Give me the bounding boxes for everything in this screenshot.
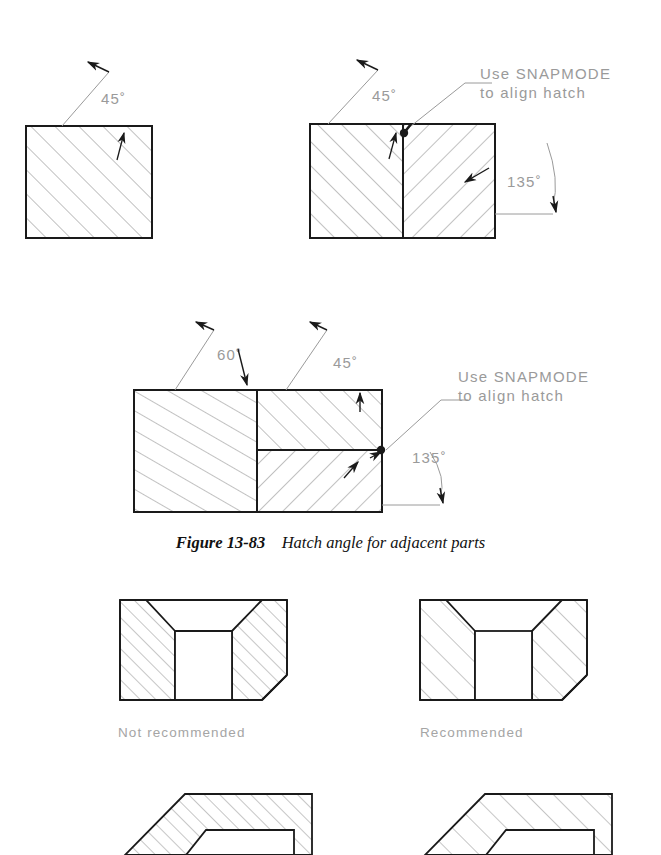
figure-three-parts: 60˚ 45˚ Use SNAPMODE to align hatch 135˚ [134,322,589,512]
trapezoid-left-notch [186,830,294,855]
label-not-recommended: Not recommended [118,725,246,740]
leader-line-45-right-fig [328,70,378,124]
rec-block-cavity [475,631,532,700]
snapmode-note-line1-mid: Use SNAPMODE [458,368,589,385]
leader-arrow-60 [196,322,214,330]
part-right-135 [403,124,495,238]
angle-label-45-mid-fig: 45˚ [333,354,358,371]
leader-line-45-mid-fig [286,330,327,390]
trapezoid-right-notch [486,830,594,855]
leader-arrow-45 [88,62,109,72]
caption-text: Hatch angle for adjacent parts [282,533,485,552]
angle-label-60: 60˚ [217,346,242,363]
leader-arrow-45-mid-fig [310,322,327,330]
snapmode-note-line2-mid: to align hatch [458,387,564,404]
technical-drawing-canvas: 45˚ 45˚ 135˚ Use SNAPMODE to [0,0,661,855]
part-body-square [26,126,152,238]
angle-label-45-left: 45˚ [101,90,126,107]
block-cavity [175,631,232,700]
caption-figure-number: Figure 13-83 [176,533,265,552]
rec-block-right-hatched-region [532,600,587,700]
part-bottom-right-135 [257,450,382,512]
figure-bottom-right-trapezoid [425,794,612,855]
part-left-60 [134,390,257,512]
snapmode-note-line1: Use SNAPMODE [480,65,611,82]
figure-not-recommended-block [120,600,287,700]
figure-page: 45˚ 45˚ 135˚ Use SNAPMODE to [0,0,661,855]
leader-line-60 [175,330,214,390]
part-top-right-45 [257,390,382,450]
figure-caption: Figure 13-83 Hatch angle for adjacent pa… [0,533,661,553]
leader-arc-135 [547,143,555,206]
angle-label-135: 135˚ [507,173,542,190]
figure-recommended-block [420,600,587,700]
figure-single-part: 45˚ [26,62,152,238]
snapmode-leader-line [406,83,465,130]
snapmode-leader-line-mid [386,400,441,450]
angle-label-45-right-fig: 45˚ [372,87,397,104]
leader-arrow-45-right-fig [357,60,378,70]
angle-label-135-mid: 135˚ [412,449,447,466]
snapmode-note-line2: to align hatch [480,84,586,101]
block-right-hatched-region [232,600,287,700]
figure-bottom-left-trapezoid [125,794,312,855]
rec-block-left-hatched-region [420,600,475,700]
part-left-45 [310,124,403,238]
figure-two-parts: 45˚ 135˚ Use SNAPMODE to align hatch [310,60,611,238]
label-recommended: Recommended [420,725,524,740]
hatch-pointer-60 [238,349,247,385]
